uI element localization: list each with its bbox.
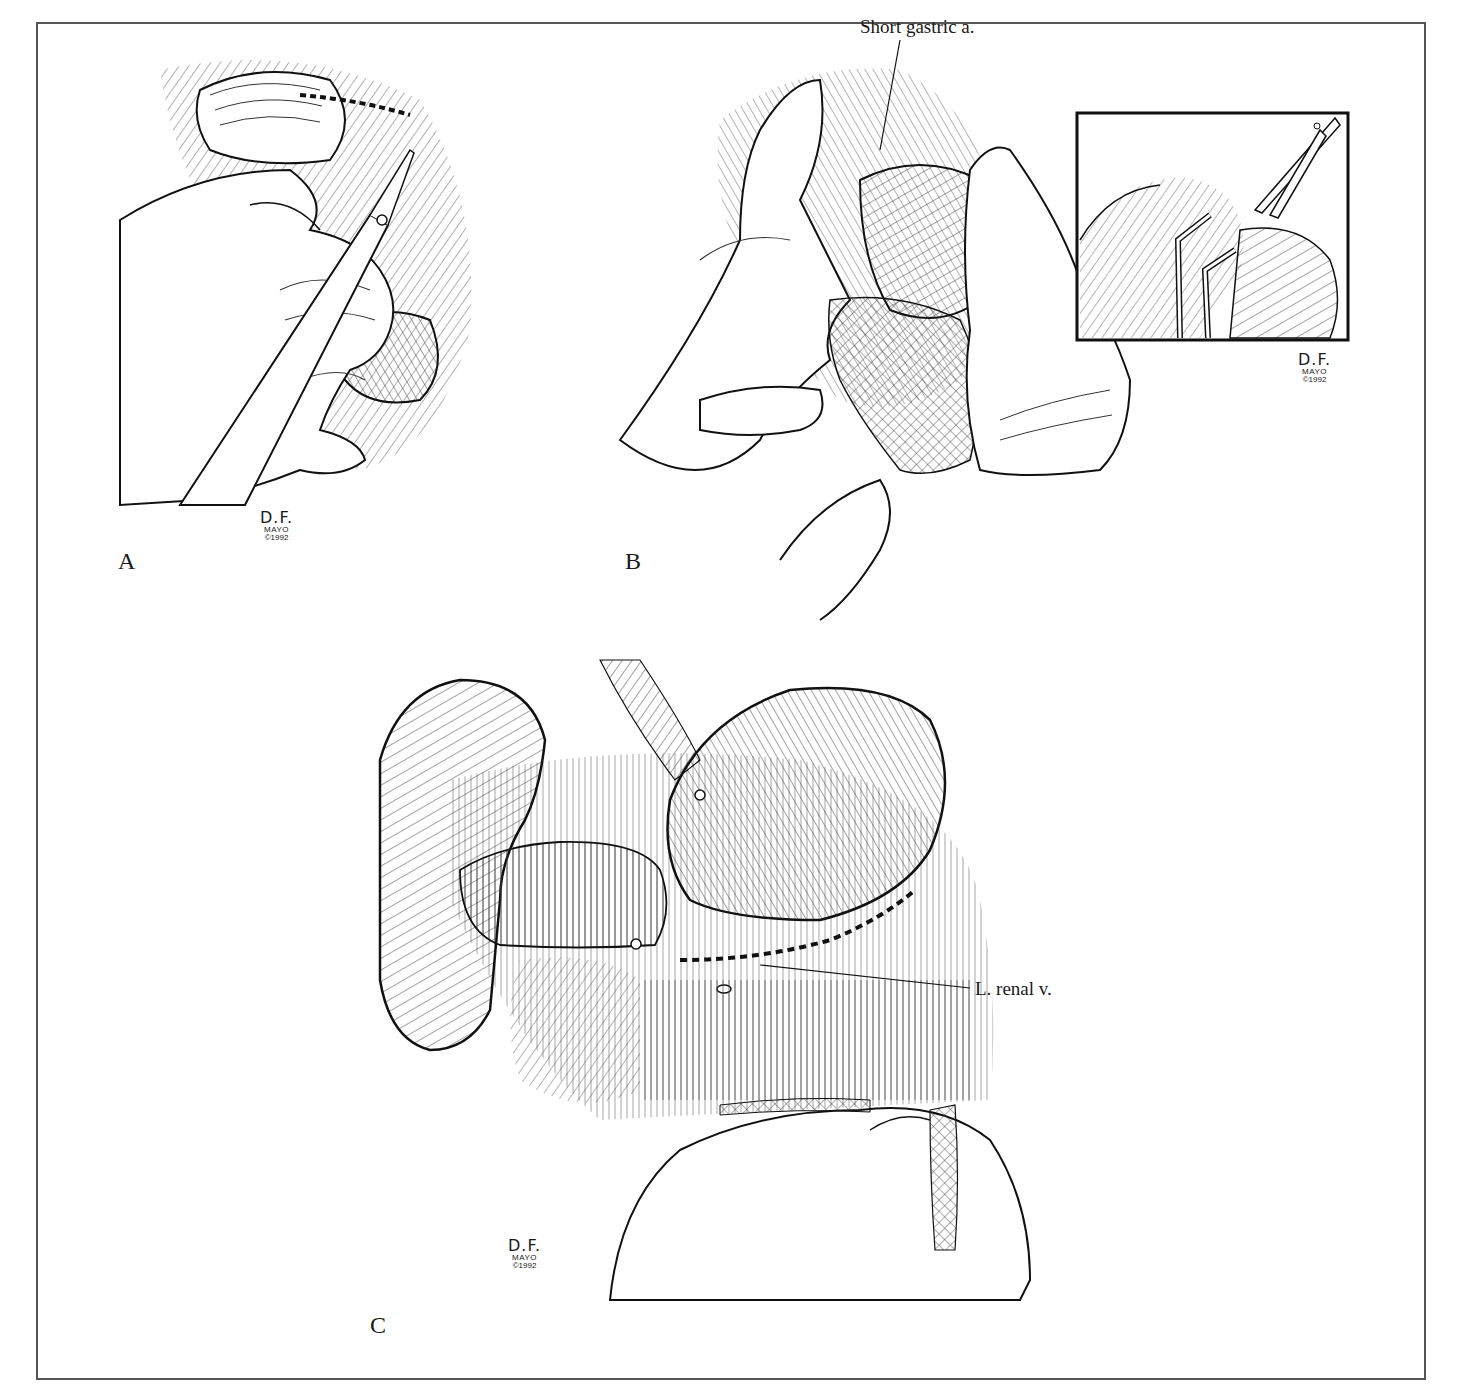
signature-initials: D.F. [1298, 352, 1331, 368]
signature-initials: D.F. [508, 1238, 541, 1254]
callout-left-renal-vein: L. renal v. [975, 978, 1052, 1000]
panel-c-drawing [380, 660, 1030, 1300]
signature-year: ©1992 [260, 534, 293, 542]
panel-b-drawing [620, 40, 1130, 620]
signature-initials: D.F. [260, 510, 293, 526]
illustration-art [0, 0, 1460, 1398]
artist-signature-panel-a: D.F. MAYO ©1992 [260, 510, 293, 542]
panel-label-c: C [370, 1312, 386, 1339]
artist-signature-panel-b: D.F. MAYO ©1992 [1298, 352, 1331, 384]
panel-a-drawing [120, 60, 471, 505]
signature-year: ©1992 [508, 1262, 541, 1270]
artist-signature-panel-c: D.F. MAYO ©1992 [508, 1238, 541, 1270]
panel-label-a: A [118, 548, 135, 575]
panel-b-inset [1077, 113, 1348, 340]
panel-label-b: B [625, 548, 641, 575]
signature-year: ©1992 [1298, 376, 1331, 384]
callout-short-gastric-artery: Short gastric a. [860, 16, 975, 38]
